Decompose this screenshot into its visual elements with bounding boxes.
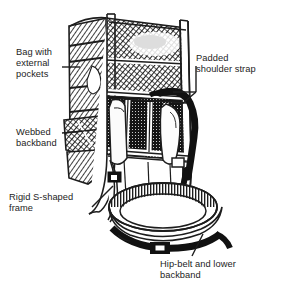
backpack-diagram: Bag with external pockets Webbed backban… [0,0,284,293]
label-webbed-backband: Webbed backband [16,127,57,149]
label-rigid-s-shaped-frame: Rigid S-shaped frame [9,192,73,214]
webbed-backband [109,100,127,165]
label-bag-with-external-pockets: Bag with external pockets [16,47,52,81]
hip-belt [108,183,230,254]
label-hip-belt-and-lower-backband: Hip-belt and lower backband [160,259,236,281]
label-padded-shoulder-strap: Padded shoulder strap [196,53,256,75]
